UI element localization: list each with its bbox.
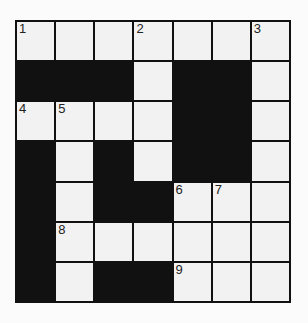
answer-cell[interactable] [252, 263, 289, 301]
answer-cell[interactable]: 8 [56, 223, 93, 261]
crossword-grid: 123456789 [15, 20, 291, 303]
answer-cell[interactable]: 7 [213, 183, 250, 221]
clue-number: 2 [136, 22, 143, 36]
answer-cell[interactable] [56, 22, 93, 60]
answer-cell[interactable] [174, 223, 211, 261]
answer-cell[interactable]: 1 [17, 22, 54, 60]
answer-cell[interactable] [252, 102, 289, 140]
clue-number: 5 [58, 102, 65, 116]
answer-cell[interactable] [95, 102, 132, 140]
block-cell [17, 142, 54, 180]
answer-cell[interactable] [252, 142, 289, 180]
block-cell [174, 142, 211, 180]
block-cell [134, 263, 171, 301]
answer-cell[interactable] [134, 102, 171, 140]
answer-cell[interactable]: 9 [174, 263, 211, 301]
answer-cell[interactable] [213, 263, 250, 301]
block-cell [17, 62, 54, 100]
answer-cell[interactable] [134, 142, 171, 180]
block-cell [95, 263, 132, 301]
block-cell [17, 183, 54, 221]
answer-cell[interactable]: 3 [252, 22, 289, 60]
answer-cell[interactable] [213, 223, 250, 261]
clue-number: 3 [254, 22, 261, 36]
clue-number: 1 [19, 22, 26, 36]
answer-cell[interactable] [56, 142, 93, 180]
block-cell [56, 62, 93, 100]
answer-cell[interactable]: 2 [134, 22, 171, 60]
block-cell [213, 142, 250, 180]
block-cell [95, 62, 132, 100]
answer-cell[interactable]: 6 [174, 183, 211, 221]
clue-number: 4 [19, 102, 26, 116]
answer-cell[interactable]: 4 [17, 102, 54, 140]
block-cell [95, 183, 132, 221]
clue-number: 6 [176, 183, 183, 197]
answer-cell[interactable] [134, 223, 171, 261]
answer-cell[interactable] [213, 22, 250, 60]
answer-cell[interactable] [252, 223, 289, 261]
block-cell [17, 263, 54, 301]
block-cell [213, 102, 250, 140]
block-cell [134, 183, 171, 221]
block-cell [213, 62, 250, 100]
block-cell [174, 102, 211, 140]
clue-number: 9 [176, 263, 183, 277]
answer-cell[interactable] [95, 22, 132, 60]
block-cell [17, 223, 54, 261]
answer-cell[interactable] [56, 263, 93, 301]
answer-cell[interactable] [95, 223, 132, 261]
block-cell [174, 62, 211, 100]
answer-cell[interactable] [134, 62, 171, 100]
answer-cell[interactable] [174, 22, 211, 60]
block-cell [95, 142, 132, 180]
answer-cell[interactable] [252, 62, 289, 100]
clue-number: 8 [58, 223, 65, 237]
clue-number: 7 [215, 183, 222, 197]
answer-cell[interactable] [252, 183, 289, 221]
answer-cell[interactable] [56, 183, 93, 221]
answer-cell[interactable]: 5 [56, 102, 93, 140]
